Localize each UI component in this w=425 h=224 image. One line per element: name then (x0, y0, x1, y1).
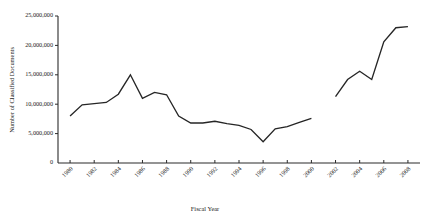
x-tick-label: 1986 (132, 165, 146, 179)
y-axis-tick-labels: 05,000,00010,000,00015,000,00020,000,000… (25, 11, 53, 165)
x-tick-label: 1994 (229, 165, 243, 179)
x-tick-label: 2000 (301, 165, 315, 179)
x-tick-label: 1992 (205, 165, 219, 179)
x-tick-label: 1984 (108, 165, 122, 179)
data-line-series (70, 75, 311, 142)
data-series-group (70, 27, 408, 142)
x-tick-label: 2008 (398, 165, 412, 179)
x-axis-tick-labels: 1980198219841986198819901992199419961998… (60, 165, 412, 179)
x-tick-label: 1982 (84, 165, 98, 179)
y-tick-label: 20,000,000 (25, 41, 53, 48)
data-line-series (336, 27, 408, 97)
x-axis-group: 1980198219841986198819901992199419961998… (58, 160, 420, 212)
y-tick-label: 5,000,000 (28, 129, 53, 136)
x-tick-label: 1980 (60, 165, 74, 179)
y-tick-label: 0 (50, 158, 53, 165)
x-tick-label: 2002 (326, 165, 340, 179)
y-axis-title: Number of Classified Documents (8, 47, 15, 133)
x-tick-label: 2004 (350, 165, 364, 179)
y-tick-label: 15,000,000 (25, 70, 53, 77)
x-tick-label: 1996 (253, 165, 267, 179)
x-tick-label: 1990 (181, 165, 195, 179)
x-axis-title: Fiscal Year (191, 205, 220, 212)
x-tick-label: 1988 (157, 165, 171, 179)
chart-container: 05,000,00010,000,00015,000,00020,000,000… (0, 0, 425, 224)
y-tick-label: 10,000,000 (25, 100, 53, 107)
x-tick-label: 2006 (374, 165, 388, 179)
line-chart: 05,000,00010,000,00015,000,00020,000,000… (0, 0, 425, 224)
x-tick-label: 1998 (277, 165, 291, 179)
y-tick-label: 25,000,000 (25, 11, 53, 18)
y-axis-group: 05,000,00010,000,00015,000,00020,000,000… (8, 11, 58, 165)
